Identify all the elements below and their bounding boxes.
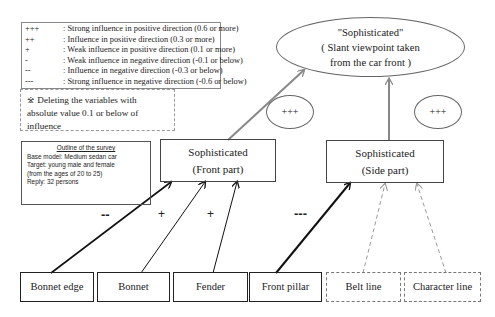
legend-text: : Influence in positive direction (0.3 o… bbox=[63, 35, 215, 46]
legend-row: ++: Influence in positive direction (0.3… bbox=[25, 35, 217, 46]
influence-badge-side: +++ bbox=[414, 95, 462, 129]
influence-label-front-pillar: --- bbox=[294, 206, 307, 221]
survey-title: Outline of the survey bbox=[27, 144, 145, 153]
influence-badge-front: +++ bbox=[266, 95, 314, 129]
node-title: Sophisticated bbox=[327, 145, 443, 162]
top-node-subtitle: ( Slant viewpoint taken bbox=[277, 40, 464, 55]
node-title: Sophisticated bbox=[161, 144, 275, 161]
note-line: ※ Deleting the variables with bbox=[27, 94, 170, 107]
legend-symbol: - bbox=[25, 56, 63, 67]
legend-box: +++: Strong influence in positive direct… bbox=[21, 22, 221, 89]
legend-symbol: + bbox=[25, 45, 63, 56]
survey-line: Base model: Medium sedan car bbox=[27, 153, 145, 162]
legend-row: ---: Strong influence in negative direct… bbox=[25, 77, 217, 88]
top-node-subtitle: from the car front ) bbox=[277, 55, 464, 70]
note-line: absolute value 0.1 or below of influence bbox=[27, 107, 170, 133]
influence-label-fender: + bbox=[207, 207, 214, 221]
legend-symbol: --- bbox=[25, 77, 63, 88]
survey-line: Reply: 32 persons bbox=[27, 178, 145, 187]
leaf-front-pillar: Front pillar bbox=[249, 272, 322, 302]
mid-node-front-part: Sophisticated (Front part) bbox=[160, 139, 276, 182]
legend-text: : Weak influence in negative direction (… bbox=[63, 56, 243, 67]
survey-outline-box: Outline of the survey Base model: Medium… bbox=[21, 141, 151, 205]
influence-label: +++ bbox=[430, 106, 447, 117]
influence-label-bonnet: + bbox=[158, 207, 165, 221]
top-node-sophisticated: "Sophisticated" ( Slant viewpoint taken … bbox=[276, 17, 465, 77]
leaf-belt-line: Belt line bbox=[326, 272, 401, 302]
leaf-label: Character line bbox=[413, 281, 472, 292]
leaf-fender: Fender bbox=[173, 272, 248, 302]
legend-row: +++: Strong influence in positive direct… bbox=[25, 24, 217, 35]
leaf-bonnet-edge: Bonnet edge bbox=[20, 272, 94, 302]
legend-text: : Strong influence in negative direction… bbox=[63, 77, 247, 88]
legend-symbol: ++ bbox=[25, 35, 63, 46]
legend-text: : Weak influence in positive direction (… bbox=[63, 45, 235, 56]
survey-line: (from the ages of 20 to 25) bbox=[27, 170, 145, 179]
leaf-label: Fender bbox=[196, 281, 225, 292]
leaf-bonnet: Bonnet bbox=[97, 272, 170, 302]
legend-row: -: Weak influence in negative direction … bbox=[25, 56, 217, 67]
legend-text: : Influence in negative direction (-0.3 … bbox=[63, 66, 223, 77]
top-node-title: "Sophisticated" bbox=[277, 25, 464, 40]
node-subtitle: (Side part) bbox=[327, 162, 443, 179]
influence-label: +++ bbox=[282, 106, 299, 117]
leaf-character-line: Character line bbox=[404, 272, 481, 302]
legend-row: +: Weak influence in positive direction … bbox=[25, 45, 217, 56]
deletion-note: ※ Deleting the variables with absolute v… bbox=[20, 89, 175, 131]
influence-label-bonnet-edge: -- bbox=[101, 207, 110, 222]
node-subtitle: (Front part) bbox=[161, 161, 275, 178]
legend-row: --: Influence in negative direction (-0.… bbox=[25, 66, 217, 77]
survey-line: Target: young male and female bbox=[27, 161, 145, 170]
leaf-label: Front pillar bbox=[262, 281, 310, 292]
legend-symbol: +++ bbox=[25, 24, 63, 35]
legend-symbol: -- bbox=[25, 66, 63, 77]
leaf-label: Belt line bbox=[346, 281, 382, 292]
leaf-label: Bonnet bbox=[118, 281, 148, 292]
leaf-label: Bonnet edge bbox=[31, 281, 84, 292]
mid-node-side-part: Sophisticated (Side part) bbox=[326, 140, 444, 183]
legend-text: : Strong influence in positive direction… bbox=[63, 24, 239, 35]
